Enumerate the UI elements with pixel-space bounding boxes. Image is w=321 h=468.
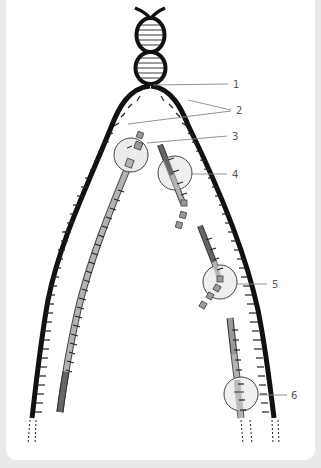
label-5: 5 (272, 279, 278, 290)
leading-strand (60, 160, 131, 412)
double-helix (135, 8, 166, 84)
lagging-strand (158, 145, 258, 418)
leading-polymerase (114, 131, 148, 172)
label-6: 6 (291, 390, 297, 401)
label-2: 2 (236, 105, 242, 116)
label-1: 1 (233, 79, 239, 90)
label-3: 3 (232, 131, 238, 142)
label-4: 4 (232, 169, 238, 180)
replication-fork-diagram: 1 2 3 4 5 6 (0, 0, 321, 468)
